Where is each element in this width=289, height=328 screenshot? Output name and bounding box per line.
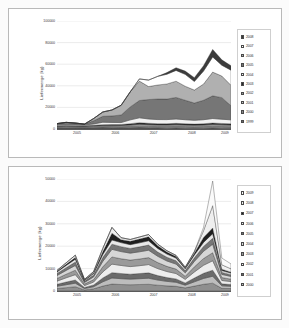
legend-swatch-icon: [241, 222, 244, 225]
legend-item-2008[interactable]: 2008: [241, 34, 253, 40]
legend-item-2003[interactable]: 2003: [241, 81, 253, 87]
chart-page: Liefermenge (kg) 02000040000600008000010…: [0, 0, 289, 328]
legend-item-2004[interactable]: 2004: [241, 241, 253, 247]
legend-item-2001[interactable]: 2001: [241, 272, 253, 278]
legend-item-2007[interactable]: 2007: [241, 43, 253, 49]
chart-top: Liefermenge (kg) 02000040000600008000010…: [8, 8, 282, 158]
chart-top-plot-area: [57, 21, 231, 129]
legend-label: 2004: [246, 73, 254, 77]
chart-top-y-ticks: 020000400006000080000100000: [31, 21, 55, 129]
y-tick-label: 0: [53, 127, 55, 131]
x-tick-label: 2005: [73, 293, 81, 297]
legend-label: 2007: [246, 44, 254, 48]
legend-label: 2000: [246, 283, 254, 287]
x-tick-label: 2008: [188, 131, 196, 135]
x-tick-label: 2006: [111, 293, 119, 297]
legend-swatch-icon: [241, 63, 244, 66]
legend-label: 2005: [246, 232, 254, 236]
legend-label: 2006: [246, 222, 254, 226]
legend-item-2001[interactable]: 2001: [241, 100, 253, 106]
legend-label: 2003: [246, 252, 254, 256]
y-tick-label: 60000: [45, 62, 55, 66]
legend-swatch-icon: [241, 101, 244, 104]
legend-label: 2002: [246, 91, 254, 95]
legend-swatch-icon: [241, 110, 244, 113]
x-tick-label: 2009: [221, 131, 229, 135]
x-tick-label: 2009: [221, 293, 229, 297]
legend-swatch-icon: [241, 263, 244, 266]
chart-bottom-svg: [57, 179, 231, 291]
legend-swatch-icon: [241, 45, 244, 48]
legend-label: 2003: [246, 82, 254, 86]
y-tick-label: 30000: [45, 222, 55, 226]
chart-bottom-x-axis-line: [57, 291, 231, 292]
y-tick-label: 20000: [45, 105, 55, 109]
chart-top-x-axis-line: [57, 129, 231, 130]
legend-item-2005[interactable]: 2005: [241, 62, 253, 68]
legend-item-2005[interactable]: 2005: [241, 231, 253, 237]
chart-bottom-x-ticks: 20052006200720082009: [57, 293, 231, 303]
legend-item-2000[interactable]: 2000: [241, 109, 253, 115]
legend-item-2009[interactable]: 2009: [241, 190, 253, 196]
legend-swatch-icon: [241, 201, 244, 204]
y-tick-label: 100000: [43, 19, 55, 23]
legend-label: 1999: [246, 120, 254, 124]
legend-swatch-icon: [241, 232, 244, 235]
legend-swatch-icon: [241, 92, 244, 95]
legend-swatch-icon: [241, 120, 244, 123]
legend-item-2004[interactable]: 2004: [241, 72, 253, 78]
legend-label: 2005: [246, 63, 254, 67]
legend-label: 2002: [246, 262, 254, 266]
legend-item-2008[interactable]: 2008: [241, 200, 253, 206]
chart-top-svg: [57, 21, 231, 129]
y-tick-label: 50000: [45, 177, 55, 181]
chart-bottom: Liefermenge (kg) 01000020000300004000050…: [8, 166, 282, 320]
legend-item-2003[interactable]: 2003: [241, 251, 253, 257]
x-tick-label: 2007: [150, 131, 158, 135]
legend-label: 2008: [246, 201, 254, 205]
legend-swatch-icon: [241, 191, 244, 194]
legend-swatch-icon: [241, 242, 244, 245]
x-tick-label: 2007: [150, 293, 158, 297]
chart-bottom-legend: 2009200820072006200520042003200220012000: [237, 185, 271, 297]
x-tick-label: 2006: [111, 131, 119, 135]
y-tick-label: 20000: [45, 244, 55, 248]
legend-label: 2008: [246, 35, 254, 39]
legend-swatch-icon: [241, 73, 244, 76]
legend-label: 2000: [246, 110, 254, 114]
legend-label: 2001: [246, 273, 254, 277]
legend-item-1999[interactable]: 1999: [241, 119, 253, 125]
legend-item-2006[interactable]: 2006: [241, 53, 253, 59]
x-tick-label: 2008: [188, 293, 196, 297]
legend-swatch-icon: [241, 35, 244, 38]
legend-label: 2001: [246, 101, 254, 105]
legend-swatch-icon: [241, 252, 244, 255]
x-tick-label: 2005: [73, 131, 81, 135]
legend-item-2002[interactable]: 2002: [241, 261, 253, 267]
legend-swatch-icon: [241, 212, 244, 215]
legend-label: 2007: [246, 211, 254, 215]
chart-top-legend: 2008200720062005200420032002200120001999: [237, 29, 271, 133]
y-tick-label: 0: [53, 289, 55, 293]
y-tick-label: 40000: [45, 84, 55, 88]
legend-item-2007[interactable]: 2007: [241, 210, 253, 216]
legend-swatch-icon: [241, 54, 244, 57]
chart-bottom-plot-area: [57, 179, 231, 291]
legend-swatch-icon: [241, 283, 244, 286]
legend-label: 2009: [246, 191, 254, 195]
chart-top-x-ticks: 20052006200720082009: [57, 131, 231, 141]
y-tick-label: 80000: [45, 41, 55, 45]
legend-label: 2004: [246, 242, 254, 246]
legend-label: 2006: [246, 54, 254, 58]
legend-swatch-icon: [241, 82, 244, 85]
y-tick-label: 10000: [45, 267, 55, 271]
chart-bottom-y-ticks: 01000020000300004000050000: [31, 179, 55, 291]
legend-swatch-icon: [241, 273, 244, 276]
y-tick-label: 40000: [45, 199, 55, 203]
legend-item-2006[interactable]: 2006: [241, 221, 253, 227]
legend-item-2002[interactable]: 2002: [241, 90, 253, 96]
legend-item-2000[interactable]: 2000: [241, 282, 253, 288]
